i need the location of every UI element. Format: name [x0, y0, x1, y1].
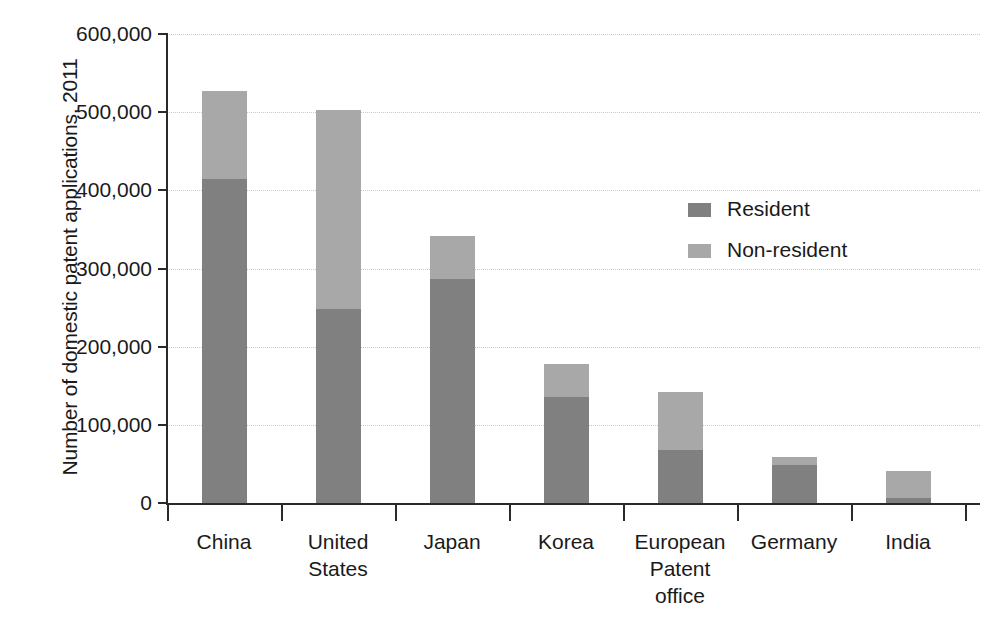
x-axis-tick	[281, 503, 283, 521]
y-axis-tick-label: 0	[0, 492, 152, 513]
y-axis-tick-label: 500,000	[0, 101, 152, 122]
y-axis-tick	[158, 502, 167, 504]
bar-segment-non-resident[interactable]	[430, 236, 475, 279]
legend-label-non-resident: Non-resident	[727, 237, 847, 263]
bar-segment-resident[interactable]	[316, 309, 361, 503]
x-axis-label-line: office	[605, 582, 755, 609]
bar-segment-non-resident[interactable]	[202, 91, 247, 179]
bar-segment-resident[interactable]	[658, 450, 703, 503]
y-axis-tick	[158, 424, 167, 426]
bar-segment-non-resident[interactable]	[886, 471, 931, 498]
x-axis-tick	[509, 503, 511, 521]
x-axis-tick	[623, 503, 625, 521]
x-axis-line	[166, 503, 980, 505]
x-axis-label-line: India	[833, 528, 983, 555]
bar-segment-resident[interactable]	[430, 279, 475, 503]
y-axis-tick	[158, 189, 167, 191]
bar-segment-resident[interactable]	[544, 397, 589, 503]
x-axis-tick	[965, 503, 967, 521]
y-axis-tick	[158, 268, 167, 270]
x-axis-tick	[167, 503, 169, 521]
bar-japan[interactable]	[430, 34, 475, 503]
x-axis-tick	[395, 503, 397, 521]
patent-applications-bar-chart: Number of domestic patent applications, …	[0, 0, 1000, 617]
bar-korea[interactable]	[544, 34, 589, 503]
bar-segment-non-resident[interactable]	[316, 110, 361, 309]
bar-european-patent-office[interactable]	[658, 34, 703, 503]
y-axis-tick	[158, 33, 167, 35]
bar-segment-non-resident[interactable]	[544, 364, 589, 398]
bar-segment-resident[interactable]	[202, 179, 247, 503]
legend-swatch-resident	[688, 203, 711, 217]
plot-area	[167, 34, 980, 503]
x-axis-label-india: India	[833, 528, 983, 555]
x-axis-tick	[737, 503, 739, 521]
bar-china[interactable]	[202, 34, 247, 503]
y-axis-tick	[158, 346, 167, 348]
y-axis-tick-label: 300,000	[0, 258, 152, 279]
y-axis-tick-label: 400,000	[0, 179, 152, 200]
bar-segment-non-resident[interactable]	[658, 392, 703, 450]
bar-india[interactable]	[886, 34, 931, 503]
legend-label-resident: Resident	[727, 196, 810, 222]
x-axis-tick	[851, 503, 853, 521]
y-axis-tick	[158, 111, 167, 113]
bar-united-states[interactable]	[316, 34, 361, 503]
y-axis-tick-label: 600,000	[0, 23, 152, 44]
bar-germany[interactable]	[772, 34, 817, 503]
x-axis-label-line: Patent	[605, 555, 755, 582]
legend-swatch-non-resident	[688, 244, 711, 258]
y-axis-tick-label: 100,000	[0, 414, 152, 435]
bar-segment-non-resident[interactable]	[772, 457, 817, 466]
x-axis-label-line: States	[263, 555, 413, 582]
y-axis-tick-label: 200,000	[0, 336, 152, 357]
bar-segment-resident[interactable]	[772, 465, 817, 503]
